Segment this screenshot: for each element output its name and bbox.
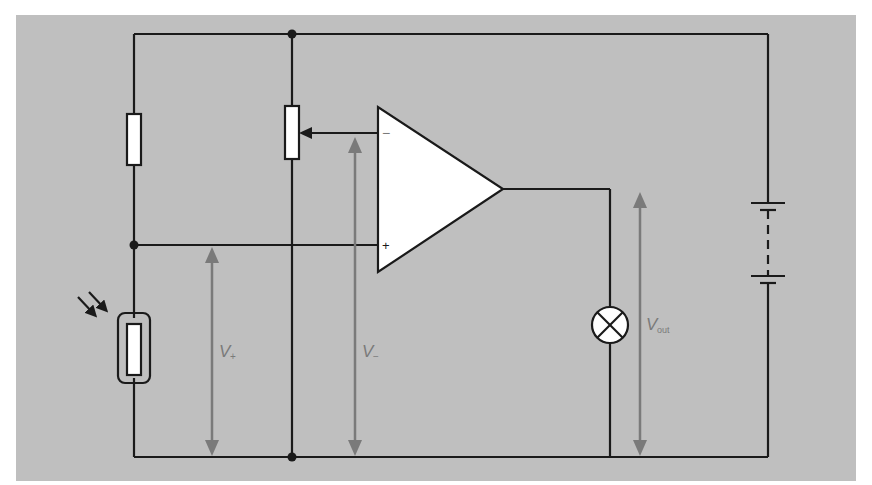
potentiometer-icon bbox=[285, 106, 299, 159]
resistor-icon bbox=[127, 114, 141, 165]
lamp-icon bbox=[592, 307, 628, 343]
junction-dot bbox=[130, 241, 139, 250]
svg-text:−: − bbox=[373, 351, 379, 362]
circuit-diagram: − + V + V − V out bbox=[0, 0, 872, 485]
wires bbox=[134, 34, 768, 457]
v-plus-label: V + bbox=[219, 342, 236, 362]
v-out-label: V out bbox=[646, 315, 670, 335]
opamp-plus-label: + bbox=[382, 238, 390, 253]
opamp-minus-label: − bbox=[382, 125, 390, 141]
v-minus-label: V − bbox=[362, 342, 379, 362]
svg-text:+: + bbox=[230, 351, 236, 362]
ldr-icon bbox=[118, 313, 150, 383]
junction-dot bbox=[288, 453, 297, 462]
junction-dot bbox=[288, 30, 297, 39]
svg-text:out: out bbox=[657, 325, 670, 335]
wiper-arrow-icon bbox=[299, 127, 312, 139]
battery-icon bbox=[751, 203, 785, 283]
light-arrows-icon bbox=[78, 292, 104, 313]
opamp-icon bbox=[378, 107, 503, 272]
